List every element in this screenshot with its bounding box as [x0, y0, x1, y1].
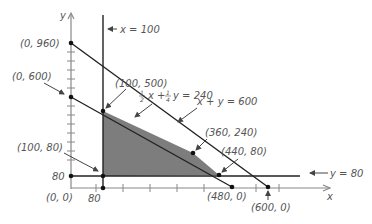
label-480-0: (480, 0)	[207, 191, 247, 202]
svg-text:1: 1	[166, 89, 170, 96]
label-0-960: (0, 960)	[20, 38, 60, 49]
label-100-500: (100, 500)	[115, 78, 167, 89]
x-axis-label: x	[326, 191, 333, 202]
label-600-0: (600, 0)	[251, 202, 291, 213]
label-360-240: (360, 240)	[205, 127, 257, 138]
arrow-0-600	[44, 83, 64, 94]
svg-text:1: 1	[140, 89, 144, 96]
label-100-80: (100, 80)	[17, 142, 63, 153]
svg-text:x +: x +	[147, 90, 165, 101]
svg-text:4: 4	[166, 96, 170, 103]
x-tick-80-label: 80	[88, 193, 101, 204]
feasible-region	[103, 111, 219, 176]
label-y-80: y = 80	[329, 168, 363, 179]
y-tick-80-label: 80	[52, 171, 65, 182]
label-x-plus-y-600: x + y = 600	[196, 96, 257, 107]
arrow-100-80	[64, 153, 98, 171]
y-axis-label: y	[59, 10, 67, 21]
origin-label: (0, 0)	[46, 192, 73, 203]
arrow-360-240	[196, 139, 207, 150]
feasible-region-graph: y x x = 100 (0, 960) (0, 600) (100, 500)…	[0, 0, 372, 224]
arrow-constraint2	[135, 104, 152, 117]
label-0-600: (0, 600)	[12, 71, 52, 82]
arrow-440-80	[222, 159, 238, 172]
arrow-100-500	[106, 89, 126, 108]
svg-text:2: 2	[140, 96, 144, 103]
label-x-100: x = 100	[119, 24, 160, 35]
arrow-constraint1	[178, 108, 197, 122]
label-440-80: (440, 80)	[221, 146, 267, 157]
